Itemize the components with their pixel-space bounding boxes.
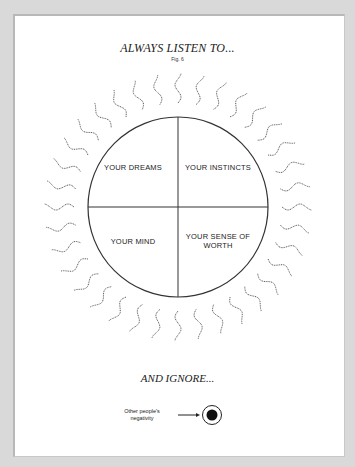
quadrant-your-instincts: YOUR INSTINCTS [178, 163, 258, 172]
heading-and-ignore: AND IGNORE... [0, 372, 355, 384]
arrowhead-icon [196, 413, 200, 417]
negativity-label: Other people's negativity [112, 408, 172, 422]
target-bullseye [207, 410, 218, 421]
quadrant-your-sense-of-worth: YOUR SENSE OF WORTH [178, 232, 258, 250]
quadrant-your-dreams: YOUR DREAMS [93, 163, 173, 172]
quadrant-your-mind: YOUR MIND [93, 237, 173, 246]
